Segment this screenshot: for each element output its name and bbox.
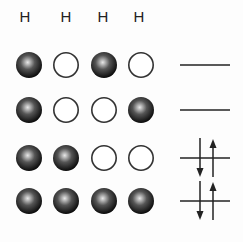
filled-sphere: [128, 188, 154, 214]
up-arrowhead-icon: [210, 139, 217, 148]
filled-sphere: [53, 145, 79, 171]
empty-sphere: [92, 98, 116, 122]
filled-sphere: [91, 188, 117, 214]
empty-sphere: [129, 53, 153, 77]
empty-sphere: [54, 53, 78, 77]
filled-sphere: [91, 52, 117, 78]
down-arrowhead-icon: [197, 211, 204, 220]
spin-diagram: H H H H: [0, 0, 243, 242]
filled-sphere: [128, 97, 154, 123]
empty-sphere: [129, 146, 153, 170]
filled-sphere: [16, 188, 42, 214]
up-arrowhead-icon: [210, 182, 217, 191]
empty-sphere: [54, 98, 78, 122]
down-arrowhead-icon: [197, 168, 204, 177]
filled-sphere: [16, 97, 42, 123]
filled-sphere: [16, 52, 42, 78]
filled-sphere: [16, 145, 42, 171]
empty-sphere: [92, 146, 116, 170]
diagram-graphics: [0, 0, 243, 242]
filled-sphere: [53, 188, 79, 214]
